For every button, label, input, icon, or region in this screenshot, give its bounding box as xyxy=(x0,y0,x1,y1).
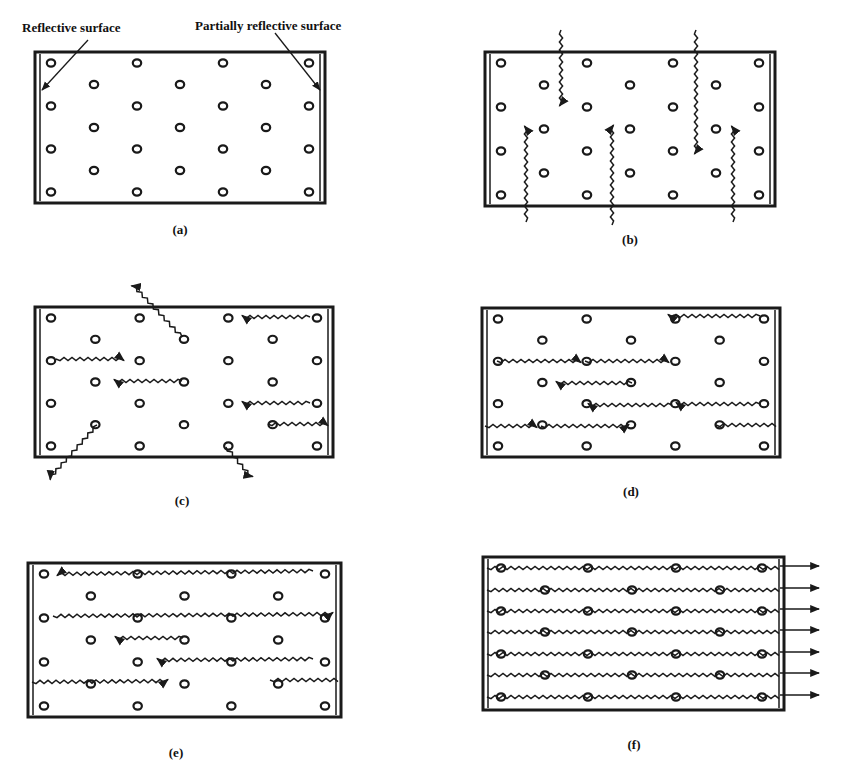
cavity-e xyxy=(28,563,341,717)
atom xyxy=(91,336,99,343)
atom xyxy=(47,59,55,66)
pump-photon-in xyxy=(694,30,697,154)
atom xyxy=(755,191,763,198)
atom xyxy=(133,658,141,665)
atom xyxy=(313,357,321,364)
atom xyxy=(760,358,768,365)
atom xyxy=(87,592,95,599)
spontaneous-photon xyxy=(50,425,97,480)
atom xyxy=(262,124,270,131)
atom xyxy=(176,167,184,174)
caption-b: (b) xyxy=(622,232,638,248)
atom xyxy=(669,191,677,198)
atom xyxy=(305,102,313,109)
atom xyxy=(669,147,677,154)
atom xyxy=(671,358,679,365)
atom xyxy=(305,188,313,195)
reflective-surface-pointer xyxy=(42,40,88,90)
atom xyxy=(47,102,55,109)
stimulated-photon xyxy=(485,424,537,427)
atom xyxy=(219,188,227,195)
amplified-photon xyxy=(115,636,183,639)
atom xyxy=(313,314,321,321)
atom xyxy=(760,400,768,407)
atom xyxy=(176,124,184,131)
atom xyxy=(540,81,548,88)
coherent-beam xyxy=(487,609,779,612)
spontaneous-photon xyxy=(242,401,310,404)
pump-photon-in xyxy=(559,30,562,106)
atom xyxy=(90,124,98,131)
atom xyxy=(497,191,505,198)
atom xyxy=(712,81,720,88)
atom xyxy=(219,145,227,152)
atom xyxy=(626,125,634,132)
pump-photon-in xyxy=(610,125,613,225)
atom xyxy=(133,59,141,66)
stimulated-photon xyxy=(676,402,760,405)
atom xyxy=(755,59,763,66)
atom xyxy=(712,169,720,176)
atom xyxy=(715,337,723,344)
caption-d: (d) xyxy=(623,484,639,500)
stimulated-photon xyxy=(556,381,632,384)
atom xyxy=(40,570,48,577)
stimulated-photon xyxy=(668,314,760,317)
atom xyxy=(305,59,313,66)
atom xyxy=(582,442,590,449)
spontaneous-photon xyxy=(226,447,253,477)
atom xyxy=(497,103,505,110)
atom xyxy=(224,357,232,364)
atom xyxy=(497,147,505,154)
atom xyxy=(268,336,276,343)
atom xyxy=(219,59,227,66)
caption-e: (e) xyxy=(169,745,183,761)
atom xyxy=(135,442,143,449)
atom xyxy=(180,378,188,385)
atom xyxy=(91,378,99,385)
atom xyxy=(313,442,321,449)
atom xyxy=(224,442,232,449)
atom xyxy=(760,315,768,322)
atom xyxy=(133,102,141,109)
spontaneous-photon xyxy=(131,286,182,337)
atom xyxy=(313,400,321,407)
stimulated-photon xyxy=(716,423,776,426)
atom xyxy=(135,314,143,321)
atom xyxy=(583,191,591,198)
atom xyxy=(583,103,591,110)
coherent-beam xyxy=(487,673,779,676)
atom xyxy=(180,680,188,687)
atom xyxy=(494,400,502,407)
atom xyxy=(671,442,679,449)
atom xyxy=(305,145,313,152)
atom xyxy=(40,614,48,621)
atom xyxy=(268,378,276,385)
stimulated-photon xyxy=(541,424,629,427)
caption-f: (f) xyxy=(628,737,641,753)
atom xyxy=(180,336,188,343)
atom xyxy=(47,145,55,152)
atom xyxy=(274,636,282,643)
atom xyxy=(40,702,48,709)
atom xyxy=(135,357,143,364)
coherent-beam xyxy=(487,588,779,591)
atom xyxy=(583,59,591,66)
atom xyxy=(274,592,282,599)
atom xyxy=(582,400,590,407)
coherent-beam xyxy=(487,652,779,655)
atom xyxy=(224,400,232,407)
atom xyxy=(87,636,95,643)
spontaneous-photon xyxy=(56,357,124,360)
atom xyxy=(760,442,768,449)
atom xyxy=(47,188,55,195)
atom xyxy=(227,702,235,709)
amplified-photon xyxy=(53,612,333,617)
caption-c: (c) xyxy=(175,493,189,509)
atom xyxy=(224,314,232,321)
atom xyxy=(262,167,270,174)
atom xyxy=(47,314,55,321)
atom xyxy=(540,169,548,176)
stimulated-photon xyxy=(585,359,669,362)
atom xyxy=(497,59,505,66)
